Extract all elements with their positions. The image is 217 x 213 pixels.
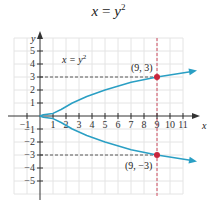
y-tick-label: −5 [24,175,35,186]
y-tick-label: −2 [24,136,35,147]
curve-label-text: x = y [61,54,83,65]
y-tick-label: 2 [30,84,35,95]
curve-arrow-upper-icon [189,69,198,76]
x-tick-label: 3 [77,119,82,130]
y-axis-label: y [30,33,36,44]
y-tick-label: −3 [24,149,35,160]
x-tick-label: 7 [129,119,134,130]
point-label-lower: (9, −3) [125,160,152,172]
curve-label: x = y2 [61,53,87,65]
x-tick-label: 11 [178,119,188,130]
x-tick-label: 9 [155,119,160,130]
x-tick-labels: −1 1 2 3 4 5 6 7 8 9 10 11 [20,119,188,130]
y-tick-label: 4 [30,58,35,69]
curve-label-exponent: 2 [83,53,87,61]
parabola-chart: −1 1 2 3 4 5 6 7 8 9 10 11 5 4 3 2 1 −1 … [0,0,217,213]
x-axis-arrow-icon [192,113,200,119]
point-9-neg3 [154,152,160,158]
curve-arrow-lower-icon [189,157,198,164]
x-tick-label: 6 [116,119,121,130]
y-axis-arrow-icon [37,31,43,39]
y-tick-label: −1 [24,124,35,135]
x-tick-label: 10 [165,119,175,130]
x-tick-label: 8 [142,119,147,130]
y-tick-label: 3 [30,71,35,82]
x-tick-label: 1 [51,119,56,130]
x-tick-label: 4 [90,119,95,130]
x-tick-label: 5 [103,119,108,130]
point-9-3 [154,74,160,80]
y-tick-label: −4 [24,162,35,173]
y-tick-label: 1 [30,97,35,108]
x-axis-label: x [201,120,207,131]
point-label-upper: (9, 3) [131,62,153,74]
y-tick-label: 5 [30,45,35,56]
